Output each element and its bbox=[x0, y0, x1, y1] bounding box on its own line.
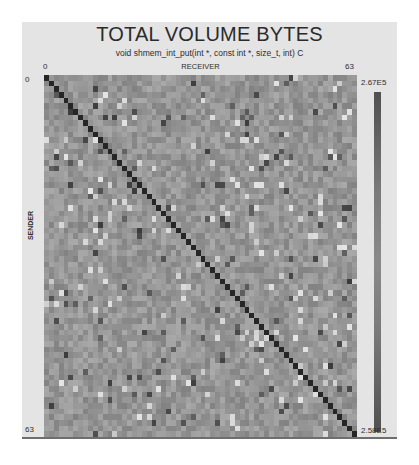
x-tick-end: 63 bbox=[345, 62, 354, 71]
colorbar-max-label: 2.67E5 bbox=[361, 78, 386, 87]
colorbar-min-label: 2.58E5 bbox=[361, 426, 386, 435]
y-axis-label: SENDER bbox=[27, 206, 34, 246]
x-axis-label: RECEIVER bbox=[44, 62, 357, 71]
chart-title: TOTAL VOLUME BYTES bbox=[22, 23, 397, 46]
heatmap-cell-diagonal[interactable] bbox=[352, 431, 357, 437]
heatmap-panel: TOTAL VOLUME BYTES void shmem_int_put(in… bbox=[22, 22, 397, 439]
y-tick-end: 63 bbox=[25, 425, 34, 434]
chart-subtitle: void shmem_int_put(int *, const int *, s… bbox=[22, 48, 397, 58]
y-tick-start: 0 bbox=[25, 75, 29, 84]
colorbar bbox=[374, 92, 381, 432]
heatmap-grid[interactable] bbox=[44, 75, 357, 437]
